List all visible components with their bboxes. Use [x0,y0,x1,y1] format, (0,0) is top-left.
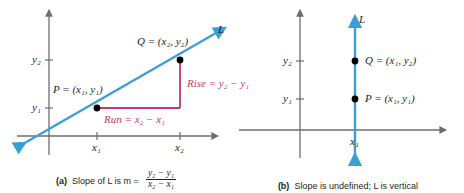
point-p-label: P = (x₁, y₁) [53,84,103,95]
point-q [352,58,359,65]
caption-a-fraction-denominator: x₂ − x₁ [146,179,176,190]
caption-a-tag: (a) [56,176,67,186]
panel-a-graph [0,0,232,193]
caption-a-text: Slope of L is m = [72,176,139,186]
point-p [352,96,359,103]
line-label-l: L [359,14,365,25]
caption-b-tag: (b) [278,181,290,191]
point-p-label: P = (x₁, y₁) [365,93,415,104]
panel-a-sloped-line: y₂ y₁ x₁ x₂ L P = (x₁, y₁) Q = (x₂, y₂) … [0,0,232,193]
y-tick-label-upper: y₂ [32,54,41,65]
point-q-label: Q = (x₁, y₂) [365,55,416,66]
point-q-label: Q = (x₂, y₂) [137,36,188,47]
caption-a-fraction: y₂ − y₁ x₂ − x₁ [146,169,176,190]
panel-b-graph [232,0,464,193]
y-tick-label-lower: y₁ [32,102,41,113]
x-tick-label-right: x₂ [175,142,184,153]
y-tick-label-upper: y₂ [283,55,292,66]
point-p [94,105,101,112]
line-label-l: L [218,24,224,35]
run-label: Run = x₂ − x₁ [104,114,165,125]
line-l [16,33,216,148]
y-tick-label-lower: y₁ [283,93,292,104]
x-tick-label-left: x₁ [92,142,101,153]
caption-a: (a) Slope of L is m = y₂ − y₁ x₂ − x₁ [0,170,232,191]
x-tick-label: x₁ [350,136,359,147]
caption-b-text: Slope is undefined; L is vertical [294,181,418,191]
slope-figure: y₂ y₁ x₁ x₂ L P = (x₁, y₁) Q = (x₂, y₂) … [0,0,464,193]
caption-b: (b) Slope is undefined; L is vertical [232,181,464,191]
panel-b-vertical-line: y₂ y₁ x₁ L Q = (x₁, y₂) P = (x₁, y₁) (b)… [232,0,464,193]
point-q [177,57,184,64]
caption-a-fraction-numerator: y₂ − y₁ [146,169,176,179]
